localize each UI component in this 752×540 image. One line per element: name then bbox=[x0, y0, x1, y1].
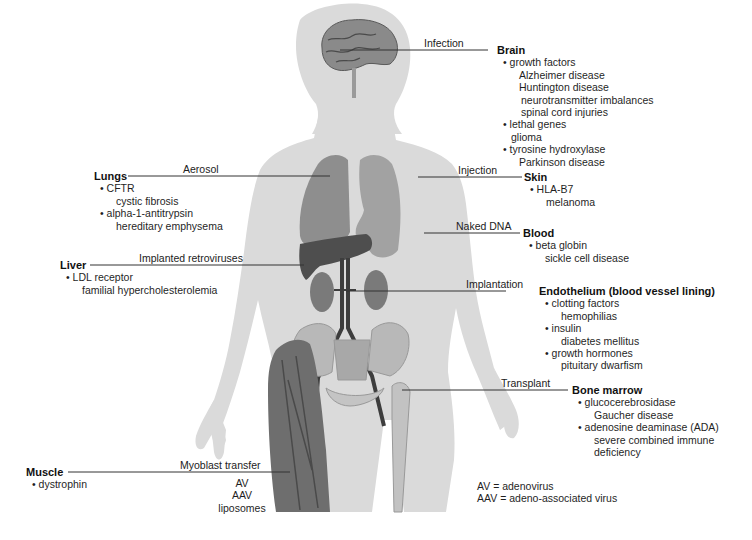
route-label-naked-dna: Naked DNA bbox=[456, 220, 511, 232]
annotation-muscle: Muscle • dystrophin bbox=[26, 466, 87, 491]
disease-item: glioma bbox=[497, 131, 653, 143]
gene-item: • lethal genes bbox=[497, 118, 653, 130]
gene-item: • LDL receptor bbox=[60, 271, 217, 283]
vector-list: AV AAV liposomes bbox=[212, 477, 272, 514]
disease-item: Gaucher disease bbox=[572, 409, 719, 421]
disease-item: severe combined immune bbox=[572, 434, 719, 446]
legend-line: AV = adenovirus bbox=[477, 480, 617, 492]
disease-item: Alzheimer disease bbox=[497, 69, 653, 81]
route-label-transplant: Transplant bbox=[501, 377, 550, 389]
gene-item: • insulin bbox=[539, 322, 715, 334]
gene-item: • clotting factors bbox=[539, 297, 715, 309]
gene-item: • growth hormones bbox=[539, 347, 715, 359]
gene-item: • dystrophin bbox=[26, 478, 87, 490]
disease-item: sickle cell disease bbox=[523, 252, 629, 264]
vector-item: AAV bbox=[212, 489, 272, 501]
gene-item: • alpha-1-antitrypsin bbox=[94, 207, 223, 219]
disease-item: cystic fibrosis bbox=[94, 195, 223, 207]
gene-item: • tyrosine hydroxylase bbox=[497, 143, 653, 155]
organ-title-lungs: Lungs bbox=[94, 170, 223, 182]
route-label-myoblast-transfer: Myoblast transfer bbox=[180, 459, 261, 471]
gene-item: • CFTR bbox=[94, 182, 223, 194]
annotation-bone-marrow: Bone marrow • glucocerebrosidase Gaucher… bbox=[572, 384, 719, 458]
organ-title-endothelium: Endothelium (blood vessel lining) bbox=[539, 285, 715, 297]
organ-title-bone-marrow: Bone marrow bbox=[572, 384, 719, 396]
route-label-infection: Infection bbox=[424, 37, 464, 49]
disease-item: melanoma bbox=[524, 196, 595, 208]
disease-item: pituitary dwarfism bbox=[539, 359, 715, 371]
vector-item: AV bbox=[212, 477, 272, 489]
disease-item: hemophilias bbox=[539, 310, 715, 322]
annotation-brain: Brain • growth factors Alzheimer disease… bbox=[497, 44, 653, 168]
gene-item: • HLA-B7 bbox=[524, 183, 595, 195]
annotation-blood: Blood • beta globin sickle cell disease bbox=[523, 227, 629, 264]
disease-item: hereditary emphysema bbox=[94, 220, 223, 232]
disease-item: neurotransmitter imbalances bbox=[497, 94, 653, 106]
disease-item: diabetes mellitus bbox=[539, 335, 715, 347]
disease-item: Parkinson disease bbox=[497, 156, 653, 168]
gene-item: • growth factors bbox=[497, 56, 653, 68]
route-label-injection: Injection bbox=[458, 164, 497, 176]
organ-title-muscle: Muscle bbox=[26, 466, 87, 478]
gene-item: • adenosine deaminase (ADA) bbox=[572, 421, 719, 433]
vector-item: liposomes bbox=[212, 502, 272, 514]
annotation-endothelium: Endothelium (blood vessel lining) • clot… bbox=[539, 285, 715, 372]
gene-item: • glucocerebrosidase bbox=[572, 396, 719, 408]
route-label-implantation: Implantation bbox=[466, 278, 523, 290]
organ-title-liver: Liver bbox=[60, 259, 217, 271]
annotation-skin: Skin • HLA-B7 melanoma bbox=[524, 171, 595, 208]
abbreviation-legend: AV = adenovirus AAV = adeno-associated v… bbox=[477, 480, 617, 505]
annotation-lungs: Lungs • CFTR cystic fibrosis • alpha-1-a… bbox=[94, 170, 223, 232]
disease-item: deficiency bbox=[572, 446, 719, 458]
organ-title-blood: Blood bbox=[523, 227, 629, 239]
annotation-liver: Liver • LDL receptor familial hyperchole… bbox=[60, 259, 217, 296]
body-silhouette bbox=[195, 4, 518, 512]
disease-item: familial hypercholesterolemia bbox=[60, 284, 217, 296]
disease-item: Huntington disease bbox=[497, 81, 653, 93]
organ-title-skin: Skin bbox=[524, 171, 595, 183]
organ-title-brain: Brain bbox=[497, 44, 653, 56]
disease-item: spinal cord injuries bbox=[497, 106, 653, 118]
legend-line: AAV = adeno-associated virus bbox=[477, 492, 617, 504]
gene-item: • beta globin bbox=[523, 239, 629, 251]
